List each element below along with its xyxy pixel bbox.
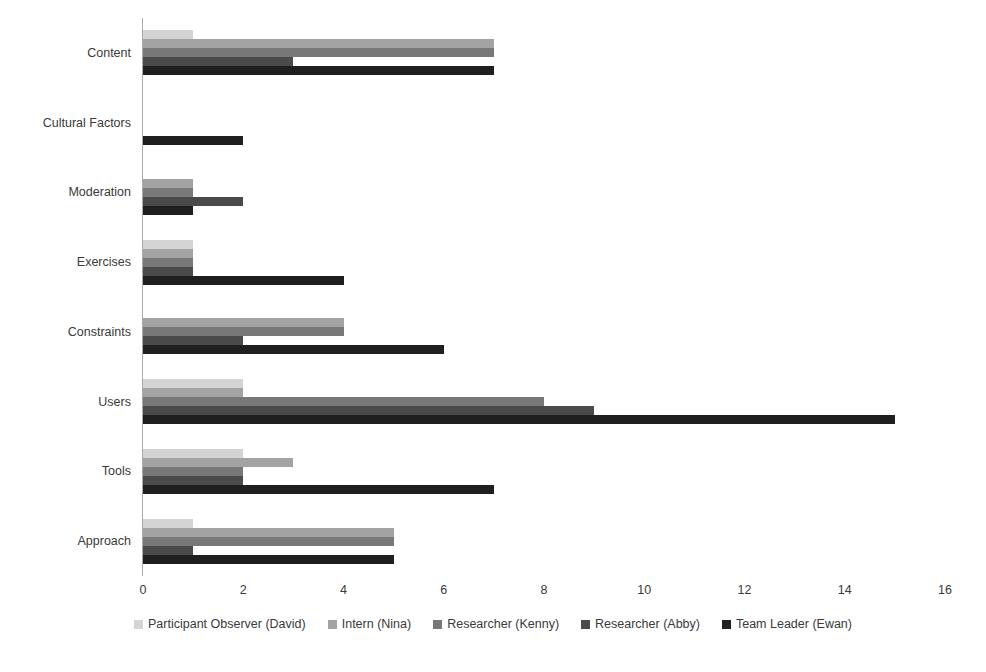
category-label: Users: [98, 396, 131, 408]
category-label: Exercises: [77, 256, 131, 268]
value-axis-tick-label: 6: [440, 583, 447, 597]
bar[interactable]: [143, 415, 895, 424]
bar[interactable]: [143, 57, 293, 66]
legend-label: Researcher (Abby): [595, 617, 700, 631]
legend-label: Participant Observer (David): [148, 617, 306, 631]
legend-swatch-icon: [328, 620, 337, 629]
bar[interactable]: [143, 179, 193, 188]
legend-label: Intern (Nina): [342, 617, 411, 631]
legend-swatch-icon: [581, 620, 590, 629]
value-axis-tick-label: 16: [938, 583, 952, 597]
legend-swatch-icon: [433, 620, 442, 629]
bar[interactable]: [143, 379, 243, 388]
category-label: Approach: [77, 535, 131, 547]
bar[interactable]: [143, 66, 494, 75]
chart-legend: Participant Observer (David)Intern (Nina…: [0, 617, 986, 631]
bar[interactable]: [143, 528, 394, 537]
value-axis-ticks: 0246810121416: [0, 583, 986, 603]
plot-area: [143, 18, 945, 576]
bar[interactable]: [143, 458, 293, 467]
bar[interactable]: [143, 249, 193, 258]
bar[interactable]: [143, 546, 193, 555]
bar[interactable]: [143, 188, 193, 197]
bar[interactable]: [143, 48, 494, 57]
legend-item[interactable]: Intern (Nina): [328, 617, 411, 631]
category-axis-labels: ContentCultural FactorsModerationExercis…: [0, 18, 143, 576]
value-axis-tick-label: 0: [140, 583, 147, 597]
legend-item[interactable]: Researcher (Abby): [581, 617, 700, 631]
bar-group: [143, 379, 945, 424]
legend-swatch-icon: [134, 620, 143, 629]
category-label: Moderation: [68, 186, 131, 198]
value-axis-tick-label: 2: [240, 583, 247, 597]
legend-swatch-icon: [722, 620, 731, 629]
bar[interactable]: [143, 476, 243, 485]
legend-label: Team Leader (Ewan): [736, 617, 852, 631]
bar[interactable]: [143, 449, 243, 458]
legend-label: Researcher (Kenny): [447, 617, 559, 631]
bar[interactable]: [143, 327, 344, 336]
bar[interactable]: [143, 485, 494, 494]
legend-item[interactable]: Researcher (Kenny): [433, 617, 559, 631]
category-label: Tools: [102, 465, 131, 477]
bar[interactable]: [143, 30, 193, 39]
bar[interactable]: [143, 206, 193, 215]
bar[interactable]: [143, 467, 243, 476]
bar-group: [143, 309, 945, 354]
bar[interactable]: [143, 345, 444, 354]
legend-item[interactable]: Team Leader (Ewan): [722, 617, 852, 631]
bar[interactable]: [143, 39, 494, 48]
bar[interactable]: [143, 336, 243, 345]
value-axis-tick-label: 8: [541, 583, 548, 597]
bar[interactable]: [143, 388, 243, 397]
bar-group: [143, 519, 945, 564]
bar[interactable]: [143, 136, 243, 145]
bar[interactable]: [143, 519, 193, 528]
value-axis-tick-label: 4: [340, 583, 347, 597]
category-label: Content: [87, 47, 131, 59]
bar[interactable]: [143, 258, 193, 267]
bar-group: [143, 100, 945, 145]
bar[interactable]: [143, 318, 344, 327]
bar[interactable]: [143, 397, 544, 406]
bar-group: [143, 30, 945, 75]
bar[interactable]: [143, 267, 193, 276]
bar-group: [143, 240, 945, 285]
bar-group: [143, 449, 945, 494]
legend-item[interactable]: Participant Observer (David): [134, 617, 306, 631]
bar[interactable]: [143, 197, 243, 206]
bar[interactable]: [143, 406, 594, 415]
category-label: Constraints: [68, 326, 131, 338]
category-label: Cultural Factors: [43, 117, 131, 129]
bar-chart: ContentCultural FactorsModerationExercis…: [0, 0, 986, 672]
bar[interactable]: [143, 537, 394, 546]
bar[interactable]: [143, 276, 344, 285]
value-axis-tick-label: 12: [738, 583, 752, 597]
bar[interactable]: [143, 555, 394, 564]
bar[interactable]: [143, 240, 193, 249]
bar-group: [143, 170, 945, 215]
value-axis-tick-label: 14: [838, 583, 852, 597]
value-axis-tick-label: 10: [637, 583, 651, 597]
